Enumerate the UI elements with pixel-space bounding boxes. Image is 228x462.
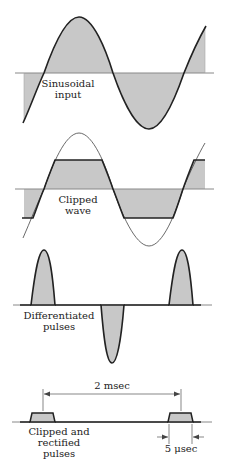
panel-sinusoidal-input: Sinusoidal input xyxy=(15,17,214,129)
rect-pulse-1 xyxy=(30,413,55,422)
label-line-2: input xyxy=(55,89,82,100)
label-line-2: wave xyxy=(65,205,91,216)
negative-pulse xyxy=(101,305,124,363)
rect-pulse-2 xyxy=(168,413,193,422)
label-line-1: Clipped and xyxy=(28,426,90,437)
panel-clipped-wave: Clipped wave xyxy=(15,133,214,246)
pulse-width-label: 5 μsec xyxy=(165,443,198,454)
arrow-left-icon xyxy=(44,392,50,397)
period-label: 2 msec xyxy=(94,380,130,391)
arrow-left-icon xyxy=(193,435,199,440)
label-line-2: pulses xyxy=(43,321,75,332)
arrow-right-icon xyxy=(174,392,180,397)
arrow-right-icon xyxy=(162,435,168,440)
positive-pulse-1 xyxy=(31,250,55,305)
waveform-diagram: Sinusoidal input Clipped wave Differenti… xyxy=(0,0,228,462)
label-line-1: Differentiated xyxy=(24,310,95,321)
label-line-1: Clipped xyxy=(58,194,98,205)
label-line-2: rectified xyxy=(38,437,81,448)
label-line-1: Sinusoidal xyxy=(42,78,95,89)
panel-differentiated-pulses: Differentiated pulses xyxy=(13,250,212,363)
label-line-3: pulses xyxy=(43,448,75,459)
positive-pulse-2 xyxy=(169,250,193,305)
panel-rectified-pulses: 2 msec 5 μsec Clipped and rectified puls… xyxy=(12,380,212,459)
